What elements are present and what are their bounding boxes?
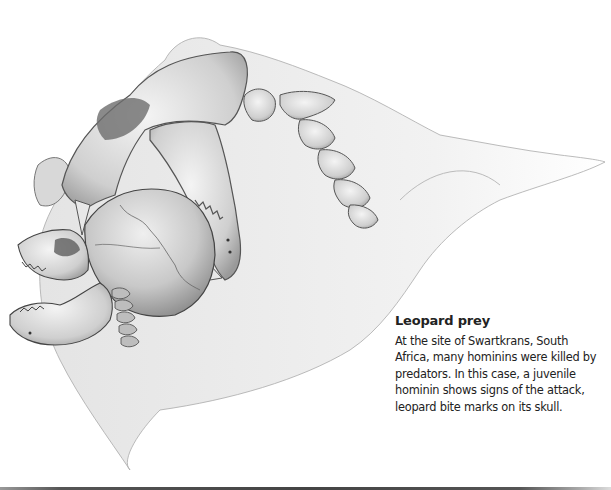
leopard-prey-illustration: [0, 0, 611, 490]
hominin-face: [18, 230, 88, 280]
caption-box: Leopard prey At the site of Swartkrans, …: [395, 313, 605, 415]
bite-mark: [29, 332, 32, 335]
bite-mark: [228, 250, 231, 253]
caption-title: Leopard prey: [395, 313, 605, 328]
bite-mark: [226, 238, 229, 241]
caption-body: At the site of Swartkrans, South Africa,…: [395, 333, 605, 415]
